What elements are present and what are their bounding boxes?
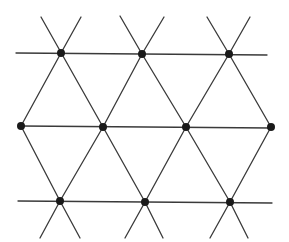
lattice-node-b3 (226, 198, 234, 206)
lattice-node-t2 (138, 50, 146, 58)
lattice-node-b1 (56, 197, 64, 205)
lattice-node-t3 (225, 50, 233, 58)
lattice-node-t1 (57, 49, 65, 57)
lattice-node-b2 (141, 198, 149, 206)
lattice-node-m2 (99, 123, 107, 131)
lattice-node-m4 (267, 123, 275, 131)
triangular-lattice-diagram (0, 0, 289, 242)
lattice-node-m1 (17, 122, 25, 130)
lattice-node-m3 (182, 123, 190, 131)
